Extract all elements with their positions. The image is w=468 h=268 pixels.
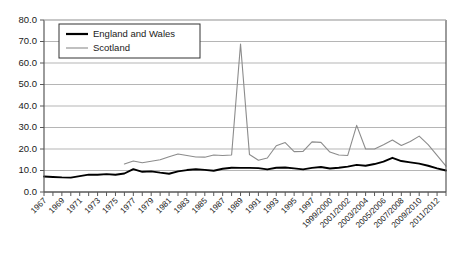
y-tick-label: 10.0 [19, 164, 38, 175]
x-tick-label: 1973 [83, 196, 103, 216]
x-tick-label: 1993 [261, 196, 281, 216]
x-tick-label: 1981 [154, 196, 174, 216]
x-axis-tick-marks [44, 192, 446, 196]
x-tick-label: 1991 [244, 196, 264, 216]
legend-label: Scotland [93, 42, 130, 53]
x-tick-label: 1979 [136, 196, 156, 216]
x-tick-label: 1969 [47, 196, 67, 216]
series-line [124, 44, 446, 166]
y-tick-label: 80.0 [19, 14, 38, 25]
x-tick-label: 1977 [119, 196, 139, 216]
y-tick-label: 60.0 [19, 57, 38, 68]
data-series-group [44, 44, 446, 178]
series-line [44, 158, 446, 178]
x-tick-label: 1985 [190, 196, 210, 216]
chart-container: 0.010.020.030.040.050.060.070.080.0 1967… [0, 0, 468, 268]
x-tick-label: 1983 [172, 196, 192, 216]
y-tick-label: 30.0 [19, 121, 38, 132]
chart-legend: England and WalesScotland [59, 24, 200, 58]
y-tick-label: 20.0 [19, 143, 38, 154]
x-tick-label: 1967 [29, 196, 49, 216]
y-tick-label: 0.0 [24, 186, 37, 197]
x-tick-label: 1987 [208, 196, 228, 216]
x-tick-label: 1995 [279, 196, 299, 216]
y-tick-label: 40.0 [19, 100, 38, 111]
x-tick-label: 1989 [226, 196, 246, 216]
x-tick-label: 1975 [101, 196, 121, 216]
legend-label: England and Wales [93, 28, 175, 39]
line-chart: 0.010.020.030.040.050.060.070.080.0 1967… [0, 0, 468, 268]
x-axis-tick-labels: 1967196919711973197519771979198119831985… [29, 196, 442, 230]
y-tick-label: 70.0 [19, 35, 38, 46]
x-tick-label: 1971 [65, 196, 85, 216]
y-tick-label: 50.0 [19, 78, 38, 89]
y-axis-tick-labels: 0.010.020.030.040.050.060.070.080.0 [19, 14, 45, 197]
